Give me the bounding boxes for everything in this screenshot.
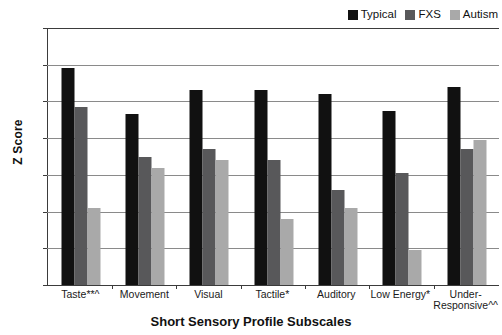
bar-autism [87,208,100,285]
x-axis-label: Tactile* [240,289,304,311]
bar-fxs [138,157,151,286]
bar-autism [280,219,293,285]
y-axis-tick [43,212,47,213]
y-axis-tick [43,175,47,176]
plot-area: 210-1-2-3-4-5 [47,28,499,285]
y-axis-tick [43,285,47,286]
bar-typical [254,90,267,285]
bar-autism [151,168,164,285]
bar-autism [473,140,486,285]
y-axis-tick [43,138,47,139]
bar-fxs [396,173,409,285]
x-axis-label: Low Energy* [368,289,432,311]
x-axis-label: Movement [112,289,176,311]
x-axis-label: Auditory [304,289,368,311]
bar-groups [48,28,499,285]
bar-group [242,28,306,285]
x-axis-label: Taste**^ [48,289,112,311]
legend-label: Typical [361,9,397,21]
bar-fxs [332,190,345,285]
legend-label: Autism [463,9,498,21]
x-axis-label: Under-Responsive^^ [432,289,499,311]
bar-chart: TypicalFXSAutism Z Score 210-1-2-3-4-5 T… [0,0,502,335]
bar-group [306,28,370,285]
bar-group [48,28,112,285]
y-axis-tick [43,248,47,249]
bar-fxs [74,107,87,285]
legend-label: FXS [418,9,440,21]
legend-item-typical: Typical [348,9,397,21]
legend-item-fxs: FXS [405,9,440,21]
legend-item-autism: Autism [450,9,498,21]
x-axis-tick-labels: Taste**^MovementVisualTactile*AuditoryLo… [48,289,499,311]
x-axis-label: Visual [176,289,240,311]
legend-swatch-icon [348,10,358,20]
bar-typical [190,90,203,285]
bar-group [370,28,434,285]
legend-swatch-icon [450,10,460,20]
y-axis-title: Z Score [11,102,25,182]
bar-group [113,28,177,285]
bar-fxs [203,149,216,285]
bar-typical [447,87,460,285]
bar-typical [383,111,396,285]
gridline [47,285,499,286]
bar-fxs [460,149,473,285]
x-axis-title: Short Sensory Profile Subscales [0,314,502,329]
y-axis-tick [43,65,47,66]
bar-group [177,28,241,285]
bar-typical [61,68,74,285]
bar-group [435,28,499,285]
chart-legend: TypicalFXSAutism [348,9,498,21]
bar-autism [345,208,358,285]
bar-fxs [267,160,280,285]
bar-autism [409,250,422,285]
bar-autism [216,160,229,285]
y-axis-tick [43,101,47,102]
bar-typical [319,94,332,285]
y-axis-tick [43,28,47,29]
legend-swatch-icon [405,10,415,20]
bar-typical [125,114,138,285]
